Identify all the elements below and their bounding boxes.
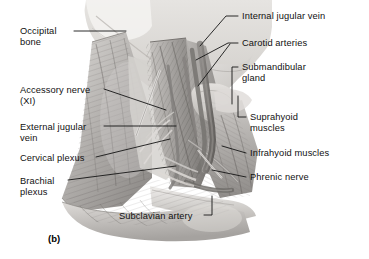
- label-carotid-arteries: Carotid arteries: [242, 38, 307, 49]
- panel-label: (b): [48, 233, 60, 244]
- label-phrenic-nerve: Phrenic nerve: [250, 172, 309, 183]
- leader-infrahyoid-muscles: [222, 146, 246, 153]
- leader-submandibular-gland: [232, 67, 238, 104]
- label-cervical-plexus: Cervical plexus: [20, 153, 85, 164]
- leader-accessory-nerve: [104, 89, 166, 110]
- leader-suprahyoid-muscles: [238, 96, 246, 117]
- label-subclavian-artery: Subclavian artery: [119, 211, 193, 222]
- leader-phrenic-nerve: [212, 170, 246, 177]
- label-external-jugular-vein: External jugular vein: [20, 122, 86, 143]
- label-infrahyoid-muscles: Infrahyoid muscles: [250, 148, 329, 159]
- leader-carotid-arteries-a: [196, 43, 238, 60]
- label-occipital-bone: Occipital bone: [20, 26, 57, 47]
- label-accessory-nerve: Accessory nerve (XI): [20, 85, 90, 106]
- anatomy-figure: Occipital bone Accessory nerve (XI) Exte…: [0, 0, 369, 259]
- label-submandibular-gland: Submandibular gland: [242, 62, 306, 83]
- leader-subclavian-artery: [204, 196, 212, 215]
- leader-internal-jugular-vein: [200, 16, 238, 46]
- label-internal-jugular-vein: Internal jugular vein: [242, 11, 325, 22]
- leader-brachial-plexus: [68, 166, 176, 180]
- label-brachial-plexus: Brachial plexus: [20, 176, 54, 197]
- label-suprahyoid-muscles: Suprahyoid muscles: [250, 112, 298, 133]
- leader-cervical-plexus: [96, 139, 170, 157]
